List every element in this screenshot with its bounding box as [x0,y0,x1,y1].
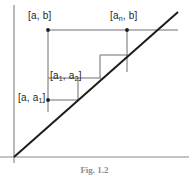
figure-container: [a, b] [an, b] [a1, a2] [a, a1] Fig. 1.2 [0,0,189,176]
interval-label-an-b: [an, b] [110,11,138,21]
interval-label-an-b-tail: , b] [123,10,138,21]
figure-canvas [0,0,189,176]
interval-label-an-b-subscript: n [119,15,123,22]
interval-label-a-a1-subscript: 1 [38,97,42,104]
interval-label-a1-a2-subscript-1: 1 [59,75,63,82]
interval-label-a1-a2-mid: , a [63,70,75,81]
figure-caption: Fig. 1.2 [0,166,189,175]
interval-label-a-a1-base: [a, a [18,92,38,103]
interval-label-an-b-base: [a [110,10,119,21]
point-a-b [46,28,50,32]
interval-label-a-a1: [a, a1] [18,93,46,103]
interval-label-a1-a2-tail: ] [79,70,82,81]
interval-label-a-b-text: [a, b] [28,10,51,21]
identity-line [14,12,178,157]
point-a-a1 [46,98,50,102]
interval-label-a1-a2: [a1, a2] [50,71,82,81]
interval-label-a-a1-tail: ] [43,92,46,103]
interval-label-a-b: [a, b] [28,11,51,21]
interval-label-a1-a2-base: [a [50,70,59,81]
interval-label-a1-a2-subscript-2: 2 [75,75,79,82]
point-an-b [125,28,129,32]
axes-group [0,5,189,163]
